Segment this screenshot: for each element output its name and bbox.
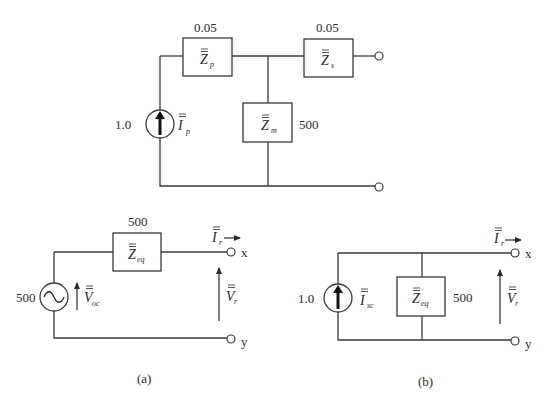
ir-label: I r	[493, 228, 505, 248]
svg-text:Z: Z	[261, 118, 269, 133]
svg-text:m: m	[271, 126, 277, 135]
caption-a: (a)	[137, 371, 151, 386]
svg-text:I: I	[493, 231, 500, 246]
svg-text:Z: Z	[128, 247, 136, 262]
terminal-x-label: x	[241, 245, 248, 260]
voc-label: V oc	[84, 286, 100, 308]
vr-label: V r	[507, 287, 519, 308]
terminal-x	[511, 249, 519, 257]
svg-text:Z: Z	[321, 53, 329, 68]
thevenin-circuit-a: x y 500 V oc 500 Z eq I r	[16, 214, 248, 386]
svg-text:s: s	[331, 61, 334, 70]
top-equivalent-circuit: 1.0 I p 0.05 Z p 0.05 Z s 500 Z m	[115, 20, 383, 191]
source-value: 1.0	[115, 117, 131, 132]
svg-text:I: I	[359, 293, 366, 308]
source-value: 500	[16, 290, 36, 305]
terminal	[375, 52, 383, 60]
terminal-x	[227, 248, 235, 256]
zeq-value: 500	[128, 214, 148, 229]
zm-value: 500	[299, 117, 319, 132]
caption-b: (b)	[418, 374, 433, 389]
svg-text:eq: eq	[421, 299, 429, 308]
svg-text:Z: Z	[200, 52, 208, 67]
norton-circuit-b: x y 1.0 I sc 500 Z eq I r	[298, 228, 532, 389]
impedance-zeq-box	[113, 233, 161, 271]
terminal-x-label: x	[525, 246, 532, 261]
svg-text:r: r	[501, 239, 505, 248]
terminal-y-label: y	[525, 336, 532, 351]
svg-text:sc: sc	[367, 301, 374, 310]
vr-label: V r	[226, 285, 238, 306]
svg-text:r: r	[219, 238, 223, 247]
terminal-y-label: y	[241, 334, 248, 349]
svg-text:p: p	[185, 127, 190, 136]
current-source-icon	[324, 284, 352, 312]
zeq-value: 500	[453, 290, 473, 305]
terminal-y	[511, 337, 519, 345]
wire	[54, 311, 227, 338]
zp-value: 0.05	[194, 20, 217, 35]
impedance-zeq-box	[397, 277, 445, 316]
svg-text:r: r	[515, 299, 519, 308]
svg-text:I: I	[177, 118, 184, 133]
svg-text:eq: eq	[137, 255, 145, 264]
ir-label: I r	[211, 227, 223, 247]
terminal	[375, 183, 383, 191]
svg-text:oc: oc	[92, 299, 100, 308]
current-source-icon	[146, 110, 174, 138]
svg-text:p: p	[209, 60, 214, 69]
isc-label: I sc	[359, 289, 374, 310]
zs-value: 0.05	[316, 20, 339, 35]
terminal-y	[227, 335, 235, 343]
source-value: 1.0	[298, 291, 314, 306]
svg-text:r: r	[234, 297, 238, 306]
svg-text:I: I	[211, 230, 218, 245]
source-label: I p	[177, 114, 190, 136]
ac-voltage-source-icon	[40, 283, 68, 311]
svg-text:Z: Z	[412, 291, 420, 306]
